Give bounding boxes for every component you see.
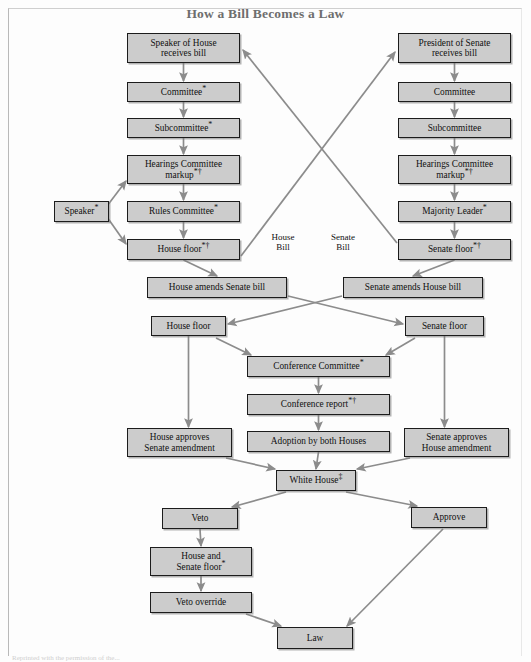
label-senate-bill-label: Senate Bill — [313, 232, 373, 252]
node-label: Rules Committee* — [149, 206, 218, 216]
node-veto-override: Veto override — [150, 592, 252, 613]
node-white-house: White House‡ — [276, 470, 356, 491]
footnote-text: Reprinted with the permission of the... — [12, 654, 312, 662]
node-approve: Approve — [411, 507, 487, 528]
node-speaker-side: Speaker* — [54, 201, 109, 222]
node-label: Adoption by both Houses — [271, 436, 366, 446]
node-senate-subcommittee: Subcommittee — [398, 118, 511, 138]
node-adoption-by-both-houses: Adoption by both Houses — [247, 431, 390, 452]
node-senate-hearings-markup: Hearings Committeemarkup*† — [398, 155, 511, 184]
node-senate-floor-1: Senate floor*† — [398, 239, 511, 260]
label-house-bill-label: House Bill — [253, 232, 313, 252]
node-label: House approvesSenate amendment — [144, 432, 214, 452]
node-house-floor-2: House floor — [151, 316, 226, 336]
node-senate-floor-2: Senate floor — [405, 316, 484, 336]
node-label: Hearings Committeemarkup*† — [145, 159, 222, 179]
node-house-committee: Committee* — [127, 82, 240, 102]
node-law: Law — [277, 627, 353, 649]
node-label: House amends Senate bill — [169, 282, 265, 292]
node-conference-report: Conference report*† — [247, 394, 390, 415]
node-president-of-senate: President of Senatereceives bill — [398, 33, 511, 63]
node-conference-committee: Conference Committee* — [247, 356, 390, 377]
node-label: Conference report*† — [281, 399, 356, 409]
node-label: Veto override — [176, 597, 226, 607]
node-house-floor-1: House floor*† — [127, 239, 240, 260]
node-label: Hearings Committeemarkup*† — [416, 159, 493, 179]
node-label: Speaker of Housereceives bill — [150, 38, 216, 58]
node-label: Senate floor*† — [428, 244, 481, 254]
node-label: Senate approvesHouse amendment — [422, 432, 491, 452]
node-senate-amends-house-bill: Senate amends House bill — [343, 277, 483, 298]
node-house-hearings-markup: Hearings Committeemarkup*† — [127, 155, 240, 184]
node-label: Approve — [433, 512, 466, 522]
node-majority-leader: Majority Leader* — [398, 201, 511, 222]
node-label: House floor — [166, 321, 210, 331]
node-label: Subcommittee* — [155, 123, 213, 133]
node-rules-committee: Rules Committee* — [127, 201, 240, 222]
node-label: Veto — [191, 513, 208, 523]
node-label: House andSenate floor* — [176, 551, 225, 571]
node-house-approves-senate-amendment: House approvesSenate amendment — [127, 428, 232, 457]
node-label: House floor*† — [157, 244, 209, 254]
node-house-amends-senate-bill: House amends Senate bill — [147, 277, 287, 298]
node-label: Senate floor — [422, 321, 467, 331]
node-label: Majority Leader* — [422, 206, 487, 216]
node-senate-approves-house-amendment: Senate approvesHouse amendment — [404, 428, 509, 457]
diagram-page: How a Bill Becomes a Law Speaker of Hous… — [0, 0, 531, 662]
node-label: Committee* — [161, 87, 206, 97]
node-house-and-senate-floor: House andSenate floor* — [150, 547, 252, 576]
node-label: Conference Committee* — [273, 361, 363, 371]
node-label: Speaker* — [65, 206, 99, 216]
node-speaker-of-house: Speaker of Housereceives bill — [127, 33, 240, 63]
node-house-subcommittee: Subcommittee* — [127, 118, 240, 138]
node-label: Subcommittee — [428, 123, 482, 133]
node-label: Senate amends House bill — [365, 282, 461, 292]
node-veto: Veto — [162, 508, 238, 529]
node-label: Committee — [434, 87, 475, 97]
node-label: President of Senatereceives bill — [419, 38, 491, 58]
node-label: Law — [307, 633, 324, 643]
node-label: White House‡ — [290, 475, 343, 485]
node-senate-committee: Committee — [398, 82, 511, 102]
